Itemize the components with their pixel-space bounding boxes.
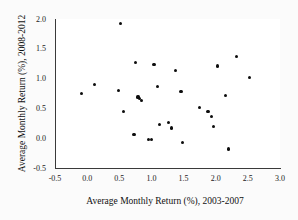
scatter-plot-figure: -0.50.00.51.01.52.02.53.0 -0.50.00.51.01…: [0, 0, 298, 220]
data-point: [134, 61, 137, 64]
data-point: [170, 126, 173, 129]
data-point: [248, 76, 251, 79]
data-point: [93, 83, 96, 86]
data-point: [132, 133, 135, 136]
data-point: [80, 92, 83, 95]
data-point: [206, 110, 209, 113]
y-axis-title: Average Monthly Return (%), 2008-2012: [17, 4, 28, 184]
x-tick-label: 3.0: [265, 174, 295, 183]
data-point: [150, 138, 153, 141]
x-tick-label: 0.0: [72, 174, 102, 183]
x-tick-label: 1.5: [169, 174, 199, 183]
x-tick-label: 2.5: [233, 174, 263, 183]
data-point: [179, 90, 182, 93]
x-axis-title: Average Monthly Return (%), 2003-2007: [36, 196, 294, 207]
x-tick-label: 1.0: [136, 174, 166, 183]
data-point: [181, 141, 184, 144]
data-point: [122, 110, 125, 113]
x-tick-label: -0.5: [40, 174, 70, 183]
x-tick-label: 0.5: [104, 174, 134, 183]
data-point: [158, 123, 161, 126]
y-tick-minor: [0, 149, 3, 150]
data-point: [156, 85, 159, 88]
x-tick-label: 2.0: [201, 174, 231, 183]
plot-area: [55, 19, 280, 168]
data-point: [198, 106, 201, 109]
data-point: [235, 55, 238, 58]
y-axis-line: [55, 19, 56, 169]
data-point: [227, 147, 230, 150]
x-axis-line: [55, 168, 281, 169]
data-point: [216, 64, 219, 67]
